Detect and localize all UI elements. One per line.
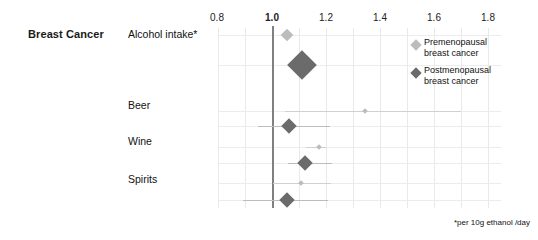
footnote: *per 10g ethanol /day bbox=[454, 218, 530, 227]
page-title: Breast Cancer bbox=[28, 28, 104, 40]
marker-postmenopausal-alcohol-intake bbox=[287, 50, 317, 80]
legend-item-premenopausal: Premenopausal breast cancer bbox=[410, 36, 535, 58]
forest-plot-figure: Breast Cancer Alcohol intake* Beer Wine … bbox=[0, 0, 538, 240]
gridline-v-0-90 bbox=[245, 28, 246, 208]
gridline-v-1-50 bbox=[407, 28, 408, 208]
row-label-spirits: Spirits bbox=[128, 173, 157, 185]
row-label-beer: Beer bbox=[128, 99, 150, 111]
marker-premenopausal-wine bbox=[316, 144, 322, 150]
gridline-h-wine-post bbox=[218, 163, 501, 164]
gridline-v-1-20 bbox=[326, 28, 327, 208]
marker-postmenopausal-beer bbox=[281, 118, 297, 134]
diamond-dark-gray-icon bbox=[410, 64, 424, 86]
gridline-v-1-30 bbox=[353, 28, 354, 208]
axis-tick-1-6: 1.6 bbox=[427, 12, 441, 23]
gridline-v-1-40 bbox=[380, 28, 381, 208]
legend: Premenopausal breast cancer Postmenopaus… bbox=[410, 36, 535, 92]
legend-item-postmenopausal: Postmenopausal breast cancer bbox=[410, 64, 535, 86]
marker-postmenopausal-spirits bbox=[279, 192, 295, 208]
axis-tick-1-4: 1.4 bbox=[373, 12, 387, 23]
legend-premenopausal-line1: Premenopausal bbox=[424, 37, 487, 47]
axis-tick-1-2: 1.2 bbox=[319, 12, 333, 23]
ci-premenopausal-beer bbox=[285, 111, 461, 112]
marker-premenopausal-alcohol-intake bbox=[281, 29, 294, 42]
axis-tick-1-8: 1.8 bbox=[481, 12, 495, 23]
row-label-alcohol-intake: Alcohol intake* bbox=[128, 28, 197, 40]
legend-premenopausal-line2: breast cancer bbox=[424, 48, 479, 58]
axis-tick-0-8: 0.8 bbox=[210, 12, 224, 23]
gridline-v-0-80 bbox=[218, 28, 219, 208]
marker-premenopausal-beer bbox=[362, 108, 368, 114]
legend-postmenopausal-line2: breast cancer bbox=[424, 76, 479, 86]
gridline-h-wine-pre bbox=[218, 147, 501, 148]
legend-postmenopausal-line1: Postmenopausal bbox=[424, 65, 491, 75]
legend-item-premenopausal-label: Premenopausal breast cancer bbox=[424, 36, 487, 58]
gridline-h-spirits-pre bbox=[218, 183, 501, 184]
diamond-light-gray-icon bbox=[410, 36, 424, 58]
row-label-wine: Wine bbox=[128, 135, 152, 147]
legend-item-postmenopausal-label: Postmenopausal breast cancer bbox=[424, 64, 491, 86]
reference-line-1-0 bbox=[272, 26, 274, 208]
axis-tick-1-0: 1.0 bbox=[265, 12, 279, 23]
